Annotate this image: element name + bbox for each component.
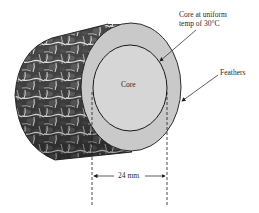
core-temp-label-line2: temp of 30°C xyxy=(179,20,227,29)
core-label: Core xyxy=(121,81,136,90)
cylinder-diagram xyxy=(0,0,259,213)
core-temp-label: Core at uniform temp of 30°C xyxy=(179,11,227,28)
leader-feathers xyxy=(182,75,218,101)
dimension-label: 24 mm xyxy=(117,172,140,181)
feathers-label: Feathers xyxy=(220,69,245,78)
